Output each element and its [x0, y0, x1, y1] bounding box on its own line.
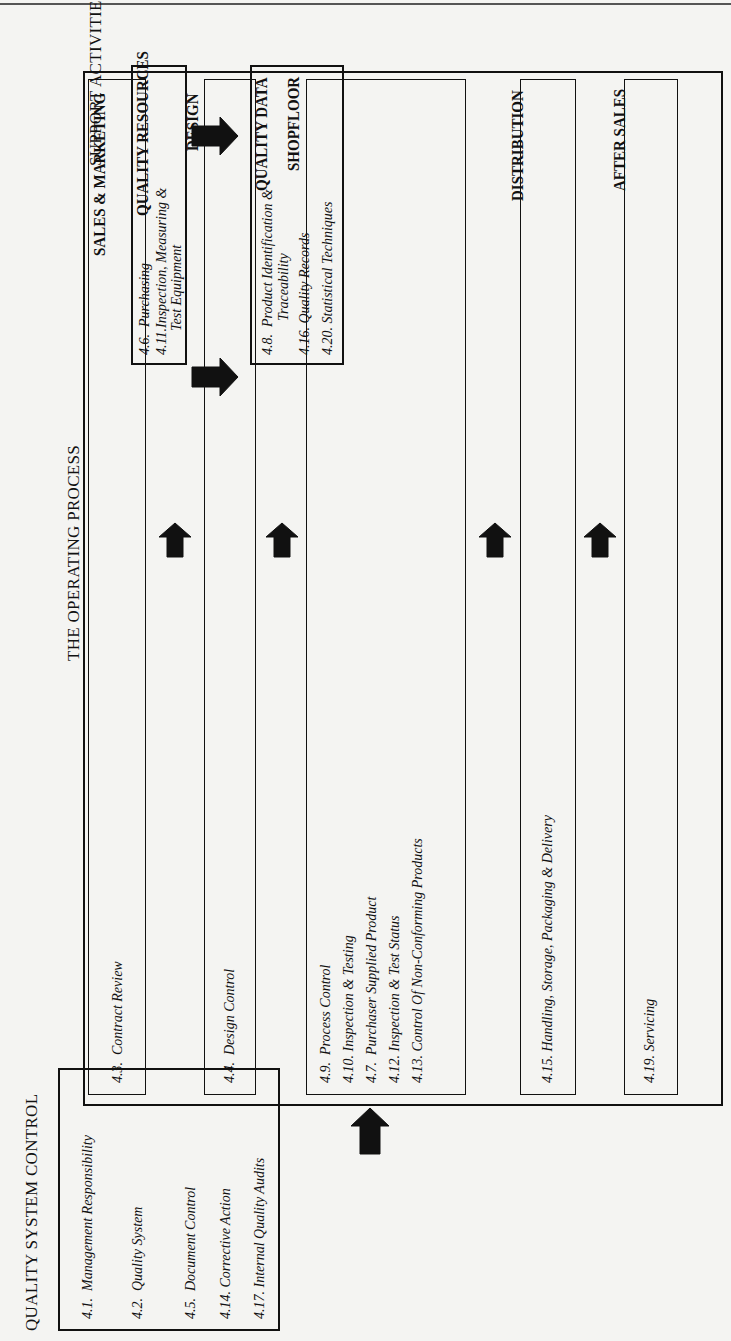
- quality-system-control-heading: QUALITY SYSTEM CONTROL: [22, 1094, 42, 1331]
- operating-process-heading: THE OPERATING PROCESS: [64, 445, 84, 661]
- stage-item-4-15: 4.15. Handling, Storage, Packaging & Del…: [540, 815, 556, 1083]
- arrow-right-icon: [155, 521, 195, 561]
- qsc-item-4-5: 4.5. Document Control: [183, 1187, 199, 1319]
- iso9000-diagram: SUPPORT ACTIVITIES QUALITY RESOURCES 4.6…: [0, 0, 731, 1341]
- arrow-right-icon: [580, 521, 620, 561]
- stage-item-4-12: 4.12. Inspection & Test Status: [387, 916, 403, 1084]
- page-top-rule: [0, 3, 731, 5]
- stage-sales-marketing-box: [88, 79, 146, 1095]
- arrow-up-icon: [350, 1106, 390, 1156]
- stage-shopfloor-box: [306, 79, 466, 1095]
- stage-item-4-9: 4.9. Process Control: [318, 965, 334, 1083]
- qsc-item-4-17: 4.17. Internal Quality Audits: [252, 1158, 268, 1319]
- stage-item-4-10: 4.10. Inspection & Testing: [341, 935, 357, 1083]
- stage-after-sales-box: [624, 79, 678, 1095]
- stage-design-box: [204, 79, 256, 1095]
- arrow-right-icon: [262, 521, 302, 561]
- stage-design-heading: DESIGN: [184, 93, 202, 151]
- stage-shopfloor-heading: SHOPFLOOR: [285, 77, 303, 171]
- qsc-item-4-1: 4.1. Management Responsibility: [80, 1135, 96, 1319]
- qsc-item-4-14: 4.14. Corrective Action: [218, 1188, 234, 1319]
- qsc-item-4-2: 4.2. Quality System: [130, 1207, 146, 1319]
- stage-item-4-3: 4.3. Contract Review: [110, 961, 126, 1083]
- arrow-right-icon: [475, 521, 515, 561]
- stage-item-4-13: 4.13. Control Of Non-Conforming Products: [410, 838, 426, 1083]
- stage-item-4-19: 4.19. Servicing: [642, 999, 658, 1083]
- stage-item-4-4: 4.4. Design Control: [222, 969, 238, 1083]
- stage-item-4-7: 4.7. Purchaser Supplied Product: [364, 897, 380, 1083]
